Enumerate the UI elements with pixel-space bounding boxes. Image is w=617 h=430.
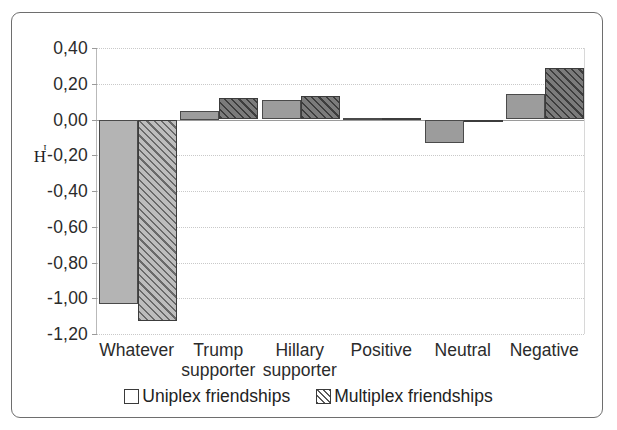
bar-multiplex [301,96,340,119]
legend-label-uniplex: Uniplex friendships [142,386,290,407]
x-axis-category: Neutral [422,340,504,360]
x-axis-category: Hillarysupporter [259,340,341,380]
bar-group [423,48,505,334]
x-axis-tick-label-line2: supporter [259,360,341,380]
x-axis-tick-label: Positive [351,340,412,360]
bar-group [342,48,424,334]
bar-group [179,48,261,334]
bar-chart: Hi 0,400,200,00-0,20-0,40-0,60-0,80-1,00… [0,0,617,430]
bar-group [97,48,179,334]
legend-item-uniplex: Uniplex friendships [124,386,290,407]
y-axis-tick [92,334,97,335]
legend-label-multiplex: Multiplex friendships [334,386,493,407]
gridline [97,334,584,335]
x-axis-tick-label: Neutral [435,340,491,360]
y-axis-tick-label: -0,60 [47,216,88,237]
chart-legend: Uniplex friendships Multiplex friendship… [0,386,617,407]
bar-uniplex [99,120,138,304]
bar-uniplex [262,100,301,120]
bar-multiplex [219,98,258,119]
bar-group [260,48,342,334]
bar-uniplex [180,111,219,120]
x-axis-category: Positive [341,340,423,360]
legend-item-multiplex: Multiplex friendships [316,386,493,407]
y-axis-tick-label: -1,00 [47,288,88,309]
x-axis-tick-label-line2: supporter [178,360,260,380]
y-axis-tick-label: 0,40 [53,38,88,59]
figure-container: Hi 0,400,200,00-0,20-0,40-0,60-0,80-1,00… [0,0,617,430]
x-axis-category: Trumpsupporter [178,340,260,380]
y-axis-tick-label: 0,20 [53,73,88,94]
x-axis-tick-label: Trump [193,340,243,360]
y-axis-tick-label: -0,80 [47,252,88,273]
y-axis-tick-label: -1,20 [47,324,88,345]
y-axis-tick-label: 0,00 [53,109,88,130]
x-axis-tick-label: Whatever [99,340,174,360]
hatched-swatch-icon [316,389,331,404]
bar-multiplex [138,120,177,322]
x-axis-tick-label: Negative [510,340,579,360]
x-axis-category: Negative [504,340,586,360]
bar-multiplex [545,68,584,120]
bar-uniplex [343,118,382,121]
bar-multiplex [464,120,503,123]
bar-uniplex [425,120,464,143]
bar-multiplex [382,118,421,121]
y-axis-tick-label: -0,40 [47,181,88,202]
plot-area: 0,400,200,00-0,20-0,40-0,60-0,80-1,00-1,… [96,48,585,334]
y-axis-tick-label: -0,20 [47,145,88,166]
x-axis-category: Whatever [96,340,178,360]
x-axis-tick-label: Hillary [275,340,324,360]
bar-uniplex [506,94,545,119]
plain-swatch-icon [124,389,139,404]
bar-group [505,48,587,334]
